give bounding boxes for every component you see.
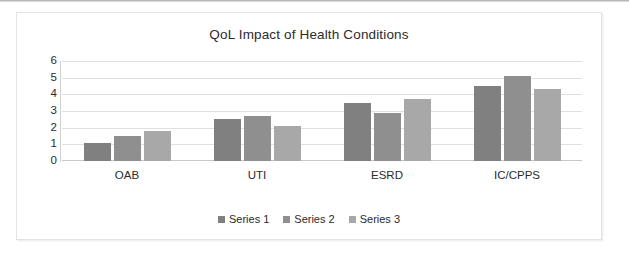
- bar[interactable]: [534, 89, 561, 161]
- y-axis-tick-label: 3: [35, 105, 57, 117]
- x-axis: OABUTIESRDIC/CPPS: [62, 169, 582, 181]
- bar[interactable]: [474, 86, 501, 161]
- legend-swatch-icon: [283, 216, 290, 223]
- y-axis-tick-label: 0: [35, 155, 57, 167]
- page-top-rule: [0, 0, 629, 3]
- y-axis-tick-label: 2: [35, 122, 57, 134]
- x-axis-tick-label: UTI: [192, 169, 322, 181]
- plot-area: 0123456 OABUTIESRDIC/CPPS: [17, 13, 601, 239]
- legend-item[interactable]: Series 2: [283, 213, 334, 225]
- y-axis-tick-label: 1: [35, 139, 57, 151]
- x-axis-tick-label: ESRD: [322, 169, 452, 181]
- y-axis-tick-label: 4: [35, 89, 57, 101]
- y-axis-tick-label: 5: [35, 72, 57, 84]
- bar[interactable]: [344, 103, 371, 161]
- legend-swatch-icon: [218, 216, 225, 223]
- bar[interactable]: [504, 76, 531, 161]
- legend-label: Series 2: [294, 213, 334, 225]
- y-axis: 0123456: [35, 61, 57, 161]
- x-axis-tick-label: IC/CPPS: [452, 169, 582, 181]
- bar[interactable]: [84, 143, 111, 161]
- bar[interactable]: [274, 126, 301, 161]
- x-axis-tick-label: OAB: [62, 169, 192, 181]
- bar-groups: [62, 61, 582, 161]
- legend-swatch-icon: [349, 216, 356, 223]
- bar[interactable]: [244, 116, 271, 161]
- bar[interactable]: [214, 119, 241, 161]
- legend-item[interactable]: Series 1: [218, 213, 269, 225]
- bar-group: [322, 61, 452, 161]
- legend-label: Series 1: [229, 213, 269, 225]
- chart-legend: Series 1Series 2Series 3: [17, 213, 601, 225]
- bar[interactable]: [114, 136, 141, 161]
- y-axis-tick-label: 6: [35, 55, 57, 67]
- chart-container: QoL Impact of Health Conditions 0123456 …: [16, 12, 602, 240]
- y-axis-line: [60, 61, 61, 162]
- bar-group: [192, 61, 322, 161]
- legend-item[interactable]: Series 3: [349, 213, 400, 225]
- bar-group: [452, 61, 582, 161]
- bar-group: [62, 61, 192, 161]
- bar[interactable]: [374, 113, 401, 161]
- bar[interactable]: [404, 99, 431, 161]
- legend-label: Series 3: [360, 213, 400, 225]
- bar[interactable]: [144, 131, 171, 161]
